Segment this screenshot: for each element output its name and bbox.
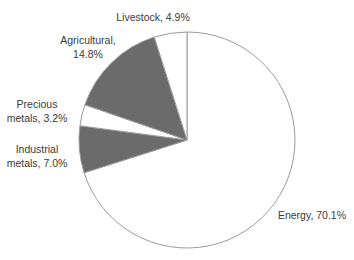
pie-chart: Energy, 70.1%Industrialmetals, 7.0%Preci… (0, 0, 354, 260)
pie-slices (79, 32, 295, 248)
data-label-livestock: Livestock, 4.9% (116, 11, 190, 23)
data-label-precious-metals: Preciousmetals, 3.2% (7, 98, 68, 124)
data-label-agricultural: Agricultural,14.8% (60, 34, 115, 60)
data-label-industrial-metals: Industrialmetals, 7.0% (7, 143, 68, 169)
data-label-energy: Energy, 70.1% (278, 209, 346, 221)
